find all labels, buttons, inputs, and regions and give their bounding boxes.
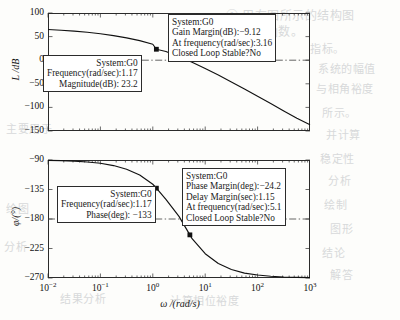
phase-ytick-0: −90: [0, 154, 44, 164]
gain-margin-value: Gain Margin(dB):−9.12: [172, 27, 272, 38]
magnitude-ytick-5: −150: [0, 125, 44, 135]
phase-margin-value: Phase Margin(deg):−24.2: [186, 181, 282, 192]
phase-ytick-2: −180: [0, 213, 44, 223]
xtick-5: 103: [290, 281, 330, 293]
phase-margin-point[interactable]: [187, 232, 192, 237]
phase-margin-system: System:G0: [186, 171, 282, 182]
magnitude-ytick-2: 0: [0, 54, 44, 64]
xtick-0: 10−2: [28, 281, 68, 293]
magnitude-ytick-0: 100: [0, 7, 44, 17]
phase-frequency: Frequency(rad/sec):1.17: [61, 199, 152, 210]
phase-margin-stability: Closed Loop Stable?No: [186, 213, 282, 224]
magnitude-value: Magnitude(dB): 23.2: [47, 79, 138, 90]
xtick-1: 10−1: [80, 281, 120, 293]
x-axis-label: ω /(rad/s): [120, 298, 240, 309]
magnitude-frequency: Frequency(rad/sec):1.17: [47, 68, 138, 79]
gain-margin-system: System:G0: [172, 17, 272, 28]
phase-datatip[interactable]: System:G0 Frequency(rad/sec):1.17 Phase(…: [57, 186, 156, 223]
phase-ytick-1: −135: [0, 184, 44, 194]
xtick-2: 100: [133, 281, 173, 293]
magnitude-ytick-3: −50: [0, 78, 44, 88]
phase-margin-frequency: At frequency(rad/sec):5.1: [186, 202, 282, 213]
phase-value: Phase(deg): −133: [61, 210, 152, 221]
xtick-3: 101: [185, 281, 225, 293]
gain-margin-frequency: At frequency(rad/sec):3.16: [172, 38, 272, 49]
magnitude-datatip[interactable]: System:G0 Frequency(rad/sec):1.17 Magnit…: [43, 55, 142, 92]
phase-system: System:G0: [61, 189, 152, 200]
gain-margin-datatip[interactable]: System:G0 Gain Margin(dB):−9.12 At frequ…: [168, 14, 276, 62]
xtick-4: 102: [238, 281, 278, 293]
gain-margin-stability: Closed Loop Stable?No: [172, 48, 272, 59]
magnitude-system: System:G0: [47, 58, 138, 69]
phase-margin-datatip[interactable]: System:G0 Phase Margin(deg):−24.2 Delay …: [182, 168, 286, 226]
bode-plot-figure: ① 用右图所示的结构图的传递函数。指标。系统的幅值与相角裕度所示。并计算稳定性分…: [0, 0, 400, 320]
magnitude-ytick-1: 50: [0, 31, 44, 41]
delay-margin-value: Delay Margin(sec):1.15: [186, 192, 282, 203]
magnitude-ytick-4: −100: [0, 101, 44, 111]
phase-ytick-3: −225: [0, 243, 44, 253]
